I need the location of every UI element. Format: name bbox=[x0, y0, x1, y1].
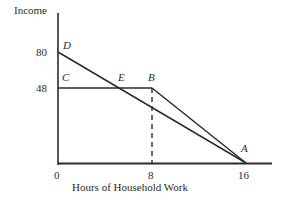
x-axis-title: Hours of Household Work bbox=[72, 182, 188, 193]
x-tick-label-16: 16 bbox=[238, 170, 249, 181]
point-label-D: D bbox=[63, 40, 71, 51]
income-vs-household-work-chart: Income Hours of Household Work 80 48 0 8… bbox=[0, 0, 293, 203]
point-label-B: B bbox=[148, 72, 155, 83]
y-axis-title: Income bbox=[14, 5, 47, 16]
chart-plot-area bbox=[0, 0, 293, 203]
point-label-E: E bbox=[118, 72, 125, 83]
x-tick-label-0: 0 bbox=[54, 170, 60, 181]
y-tick-label-80: 80 bbox=[36, 47, 47, 58]
point-label-C: C bbox=[62, 72, 69, 83]
series-line-BA bbox=[152, 88, 246, 163]
x-tick-label-8: 8 bbox=[148, 170, 154, 181]
point-label-A: A bbox=[241, 143, 248, 154]
y-tick-label-48: 48 bbox=[36, 83, 47, 94]
